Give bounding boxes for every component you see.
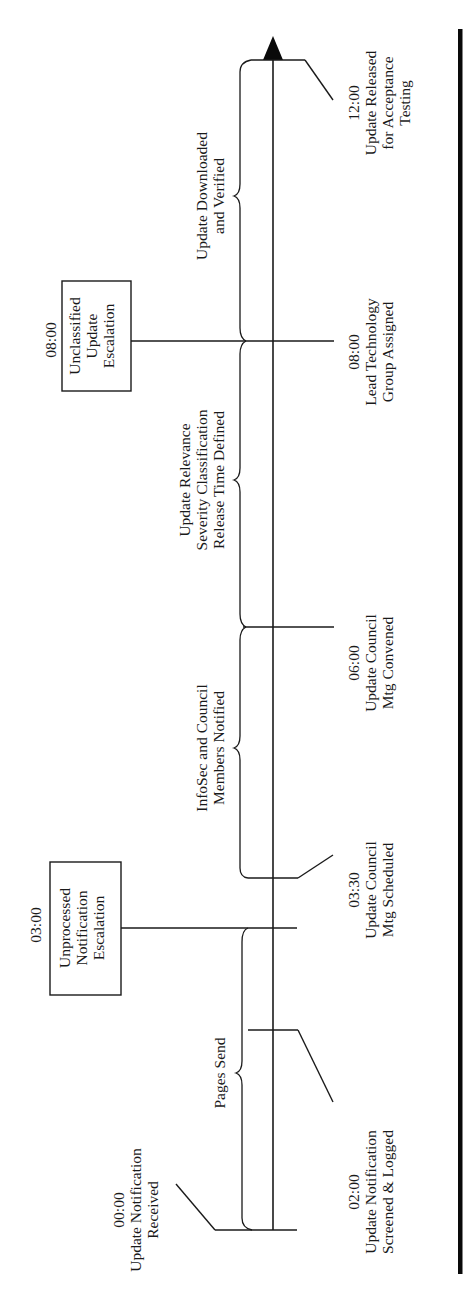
phase-label-relevance-line: Release Time Defined <box>210 411 227 549</box>
event-label-08-00: 08:00Lead TechnologyGroup Assigned <box>345 298 396 406</box>
event-label-03-30-line: Update Council <box>362 841 379 939</box>
phase-label-relevance: Update RelevanceSeverity ClassificationR… <box>176 409 227 550</box>
event-label-00-00-line: 00:00 <box>110 1192 127 1228</box>
phase-label-infosec-line: InfoSec and Council <box>193 684 210 811</box>
phase-label-relevance-line: Update Relevance <box>176 423 193 536</box>
tick-03-30 <box>248 855 333 878</box>
event-label-02-00-line: Update Notification <box>362 1130 379 1254</box>
timeline-arrow-icon <box>263 36 283 60</box>
page-rule <box>458 29 463 1274</box>
escalation-text-03-00: UnprocessedNotificationEscalation <box>56 888 107 968</box>
event-label-12-00-line: 12:00 <box>345 85 362 121</box>
phase-label-downloaded-line: Update Downloaded <box>193 132 210 260</box>
event-label-06-00-line: Mtg Convened <box>379 616 396 709</box>
event-label-00-00-line: Update Notification <box>127 1148 144 1272</box>
phase-label-infosec: InfoSec and CouncilMembers Notified <box>193 684 227 811</box>
escalation-text-03-00-line: Unprocessed <box>56 888 73 968</box>
event-label-03-30-line: Mtg Scheduled <box>379 843 396 938</box>
phase-label-downloaded: Update Downloadedand Verified <box>193 132 227 260</box>
event-label-12-00: 12:00Update Releasedfor AcceptanceTestin… <box>345 50 413 155</box>
escalation-time-03-00-line: 03:00 <box>27 907 44 943</box>
phase-label-pages-send: Pages Send <box>211 1037 228 1108</box>
tick-02-00 <box>248 1030 333 1102</box>
event-label-12-00-line: for Acceptance <box>379 56 396 149</box>
event-label-03-30-line: 03:30 <box>345 872 362 908</box>
bracket-relevance-classification <box>234 341 246 627</box>
timeline-diagram: 00:00Update NotificationReceived02:00Upd… <box>0 0 467 1310</box>
escalation-text-08-00-line: Escalation <box>100 303 117 368</box>
phase-label-infosec-line: Members Notified <box>210 691 227 805</box>
event-label-06-00-line: Update Council <box>362 614 379 712</box>
event-label-02-00-line: 02:00 <box>345 1174 362 1210</box>
event-label-12-00-line: Testing <box>396 80 413 126</box>
tick-00-00 <box>176 1184 297 1230</box>
escalation-text-08-00-line: Update <box>83 314 100 359</box>
phase-label-pages-send-line: Pages Send <box>211 1037 228 1108</box>
bracket-infosec-notified <box>234 627 248 878</box>
bracket-downloaded-verified <box>234 60 251 341</box>
event-label-00-00-line: Received <box>144 1181 161 1239</box>
event-label-02-00: 02:00Update NotificationScreened & Logge… <box>345 1130 396 1254</box>
event-label-02-00-line: Screened & Logged <box>379 1130 396 1254</box>
event-label-12-00-line: Update Released <box>362 50 379 155</box>
escalation-text-08-00-line: Unclassified <box>66 297 83 375</box>
phase-label-relevance-line: Severity Classification <box>193 409 210 550</box>
tick-12-00 <box>251 60 333 100</box>
phase-label-downloaded-line: and Verified <box>210 158 227 234</box>
bracket-pages-send <box>236 928 252 1230</box>
escalation-text-03-00-line: Notification <box>73 890 90 965</box>
event-label-08-00-line: Group Assigned <box>379 302 396 403</box>
escalation-time-03-00: 03:00 <box>27 907 44 943</box>
event-label-03-30: 03:30Update CouncilMtg Scheduled <box>345 841 396 939</box>
event-label-08-00-line: 08:00 <box>345 334 362 370</box>
escalation-time-08-00-line: 08:00 <box>42 322 59 358</box>
event-label-00-00: 00:00Update NotificationReceived <box>110 1148 161 1272</box>
event-label-08-00-line: Lead Technology <box>362 298 379 406</box>
event-label-06-00-line: 06:00 <box>345 645 362 681</box>
event-label-06-00: 06:00Update CouncilMtg Convened <box>345 614 396 712</box>
escalation-time-08-00: 08:00 <box>42 322 59 358</box>
escalation-text-03-00-line: Escalation <box>90 895 107 960</box>
